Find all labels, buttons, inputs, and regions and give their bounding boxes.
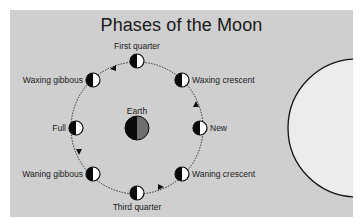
sun-shape [288, 59, 353, 197]
moon-waning-gibbous-icon [86, 167, 100, 181]
moon-waxing-gibbous-icon [86, 73, 100, 87]
moon-full-icon [69, 121, 83, 135]
moon-third-quarter-icon [130, 186, 144, 200]
phase-label-waxing-crescent: Waxing crescent [192, 75, 255, 85]
phase-label-first-quarter: First quarter [114, 41, 160, 51]
phase-label-waning-gibbous: Waning gibbous [22, 169, 83, 179]
arrow-icon [110, 65, 116, 71]
diagram-panel: Phases of the Moon [10, 10, 353, 217]
earth-icon [125, 116, 149, 140]
phase-label-third-quarter: Third quarter [113, 202, 162, 212]
moon-first-quarter-icon [130, 54, 144, 68]
moon-new-icon [193, 121, 207, 135]
phase-label-waxing-gibbous: Waxing gibbous [23, 75, 83, 85]
orbit-diagram [10, 10, 353, 217]
phase-label-waning-crescent: Waning crescent [192, 169, 255, 179]
earth-label: Earth [127, 106, 147, 116]
phase-label-new: New [210, 123, 227, 133]
moon-waning-crescent-icon [175, 167, 189, 181]
phase-label-full: Full [52, 123, 66, 133]
moon-waxing-crescent-icon [175, 73, 189, 87]
